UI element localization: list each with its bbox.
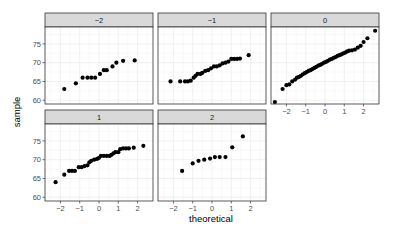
y-tick-label: 75 [33,137,41,146]
y-axis-title: sample [11,97,22,128]
data-point [62,87,66,91]
data-point [81,76,85,80]
data-point [74,81,78,85]
facet-panel: 160657075−2−1012 [33,110,153,213]
data-point [105,68,109,72]
data-point [110,64,114,68]
data-point [98,72,102,76]
data-point [168,79,172,83]
y-tick-label: 65 [33,77,41,86]
x-tick-label: 0 [323,107,327,116]
x-tick-label: 1 [229,204,233,213]
data-point [365,36,369,40]
data-point [54,180,58,184]
facet-strip-label: 0 [323,16,327,25]
facet-panel: −260657075 [33,13,153,105]
x-tick-label: −1 [188,204,197,213]
data-point [361,40,365,44]
x-tick-label: −2 [169,204,178,213]
data-point [85,76,89,80]
facet-strip-label: 2 [210,113,214,122]
y-tick-label: 70 [33,155,41,164]
data-point [273,100,277,104]
data-point [280,87,284,91]
data-point [114,61,118,65]
facet-panels: −260657075−10−2−1012160657075−2−10122−2−… [33,13,379,213]
facet-panel: 0−2−1012 [271,13,379,116]
data-point [196,159,200,163]
facet-panel: 2−2−1012 [158,110,266,213]
x-tick-label: −1 [301,107,310,116]
data-point [202,158,206,162]
data-point [373,29,377,33]
x-tick-label: 1 [342,107,346,116]
y-tick-label: 65 [33,174,41,183]
x-tick-label: −2 [282,107,291,116]
data-point [141,144,145,148]
y-tick-label: 75 [33,40,41,49]
y-tick-label: 60 [33,96,41,105]
facet-strip-label: −2 [95,16,104,25]
data-point [191,161,195,165]
data-point [241,134,245,138]
x-tick-label: 0 [97,204,101,213]
x-axis-title: theoretical [189,213,233,224]
facet-strip-label: 1 [97,113,101,122]
x-tick-label: 2 [361,107,365,116]
data-point [213,155,217,159]
data-point [247,53,251,57]
data-point [178,79,182,83]
data-point [127,146,131,150]
data-point [121,59,125,63]
data-point [223,155,227,159]
data-point [218,155,222,159]
data-point [62,173,66,177]
data-point [133,58,137,62]
data-point [230,145,234,149]
data-point [73,169,77,173]
qq-plot-chart: −260657075−10−2−1012160657075−2−10122−2−… [0,0,395,232]
y-tick-label: 70 [33,58,41,67]
data-point [89,76,93,80]
x-tick-label: 0 [210,204,214,213]
data-point [93,76,97,80]
x-tick-label: 2 [248,204,252,213]
data-point [359,44,363,48]
data-point [208,156,212,160]
x-tick-label: −1 [75,204,84,213]
facet-panel: −1 [158,13,266,104]
data-point [180,169,184,173]
x-tick-label: 1 [116,204,120,213]
data-point [132,146,136,150]
y-tick-label: 60 [33,193,41,202]
x-tick-label: −2 [56,204,65,213]
x-tick-label: 2 [135,204,139,213]
facet-strip-label: −1 [208,16,217,25]
data-point [238,56,242,60]
